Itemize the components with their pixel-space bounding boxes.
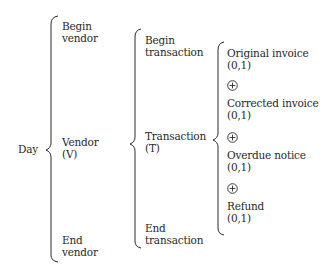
end-vendor-line1: End	[62, 234, 98, 246]
overdue-notice-item: Overdue notice (0,1)	[227, 149, 306, 173]
original-invoice-cardinality: (0,1)	[227, 59, 308, 71]
exclusive-or-circled-plus-icon	[227, 132, 238, 143]
corrected-invoice-cardinality: (0,1)	[227, 109, 318, 121]
exclusive-or-circled-plus-icon	[227, 80, 238, 91]
exclusive-or-circled-plus-icon	[227, 183, 238, 194]
vendor-line2: (V)	[62, 148, 98, 160]
bracket-vendor	[130, 29, 141, 248]
transaction-line2: (T)	[145, 142, 206, 154]
vendor-line1: Vendor	[62, 136, 98, 148]
root-label-day: Day	[18, 143, 38, 155]
refund-cardinality: (0,1)	[227, 212, 264, 224]
end-transaction-label: End transaction	[145, 222, 203, 246]
begin-transaction-label: Begin transaction	[145, 34, 203, 58]
corrected-invoice-label: Corrected invoice	[227, 97, 318, 109]
begin-vendor-label: Begin vendor	[62, 20, 98, 44]
end-vendor-label: End vendor	[62, 234, 98, 258]
refund-item: Refund (0,1)	[227, 200, 264, 224]
begin-vendor-line1: Begin	[62, 20, 98, 32]
vendor-label: Vendor (V)	[62, 136, 98, 160]
bracket-day	[46, 16, 58, 262]
original-invoice-item: Original invoice (0,1)	[227, 47, 308, 71]
corrected-invoice-item: Corrected invoice (0,1)	[227, 97, 318, 121]
begin-transaction-line2: transaction	[145, 46, 203, 58]
original-invoice-label: Original invoice	[227, 47, 308, 59]
end-transaction-line2: transaction	[145, 234, 203, 246]
bracket-transaction	[213, 42, 224, 235]
overdue-notice-cardinality: (0,1)	[227, 161, 306, 173]
begin-transaction-line1: Begin	[145, 34, 203, 46]
end-transaction-line1: End	[145, 222, 203, 234]
refund-label: Refund	[227, 200, 264, 212]
begin-vendor-line2: vendor	[62, 32, 98, 44]
overdue-notice-label: Overdue notice	[227, 149, 306, 161]
end-vendor-line2: vendor	[62, 246, 98, 258]
transaction-line1: Transaction	[145, 130, 206, 142]
transaction-label: Transaction (T)	[145, 130, 206, 154]
